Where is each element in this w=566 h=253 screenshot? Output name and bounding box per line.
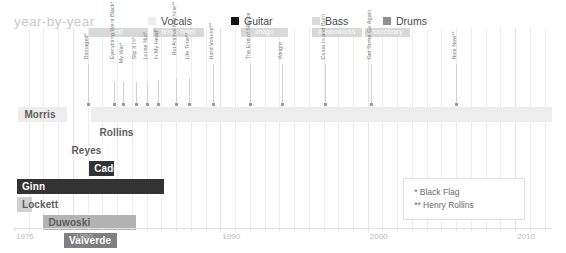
legend-swatch-icon — [148, 17, 156, 25]
album-stem — [88, 64, 89, 104]
axis-tick — [250, 228, 251, 231]
axis-tick — [456, 228, 457, 231]
legend-label: Drums — [396, 15, 427, 27]
publisher-bar: ssf — [89, 28, 148, 37]
member-row: Morris — [14, 106, 552, 124]
legend-label: Bass — [325, 15, 348, 27]
axis-tick-label: 2010 — [517, 232, 535, 241]
member-row: Cadena — [14, 160, 552, 178]
member-name-label: Lockett — [22, 197, 58, 212]
album-title: Weight — [279, 43, 285, 60]
axis-tick — [397, 228, 398, 231]
footnote-line: * Black Flag — [414, 186, 514, 199]
album-title: In My Head* — [155, 29, 161, 60]
axis-tick-label: 1976 — [16, 232, 34, 241]
axis-tick — [324, 228, 325, 231]
album-stem — [136, 82, 137, 104]
album-title: The End of Silence — [246, 13, 252, 60]
album-title: Damaged* — [84, 34, 90, 60]
axis-tick — [147, 228, 148, 231]
axis-tick — [102, 228, 103, 231]
axis-tick — [88, 228, 89, 231]
footnote-line: ** Henry Rollins — [414, 199, 514, 212]
x-axis: 19761980199020002010 — [14, 228, 552, 248]
axis-tick — [265, 228, 266, 231]
album-stem — [189, 78, 190, 104]
axis-tick — [353, 228, 354, 231]
legend-item-vocals: Vocals — [148, 15, 192, 27]
footnote-box: * Black Flag** Henry Rollins — [403, 178, 525, 220]
axis-tick — [338, 228, 339, 231]
album-stem — [213, 64, 214, 104]
axis-tick — [58, 228, 59, 231]
album-title: Loose Nut* — [143, 32, 149, 60]
axis-tick — [412, 228, 413, 231]
member-row: Rollins — [14, 124, 552, 142]
year-by-year-timeline-chart: year-by-year VocalsGuitarBassDrums ssfte… — [0, 0, 566, 253]
axis-tick — [500, 228, 501, 231]
axis-tick — [382, 228, 383, 231]
member-name-label: Rollins — [99, 125, 133, 140]
plot-area: ssftexas hotelimagodreamworkssanctuary D… — [14, 28, 552, 228]
publisher-bar: dreamworks — [312, 28, 362, 37]
publisher-label: sanctuary — [373, 29, 403, 36]
album-stem — [325, 64, 326, 104]
album-stem — [456, 64, 457, 104]
axis-tick — [161, 228, 162, 231]
album-title: Hard Volume** — [209, 23, 215, 60]
legend-item-bass: Bass — [312, 15, 348, 27]
album-stem — [123, 82, 124, 104]
axis-tick — [14, 228, 15, 231]
legend-swatch-icon — [312, 17, 320, 25]
axis-tick — [132, 228, 133, 231]
album-title: Life Time** — [186, 33, 192, 60]
axis-tick-label: 2000 — [370, 232, 388, 241]
album-title: Slip It In* — [133, 38, 139, 60]
album-stem — [176, 78, 177, 104]
axis-tick — [191, 228, 192, 231]
axis-tick — [427, 228, 428, 231]
member-name-label: Morris — [24, 107, 55, 122]
axis-tick-label: 1990 — [222, 232, 240, 241]
axis-tick — [235, 228, 236, 231]
album-stem — [250, 64, 251, 104]
member-name-label: Reyes — [71, 143, 101, 158]
axis-tick — [515, 228, 516, 231]
legend-swatch-icon — [231, 17, 239, 25]
album-title: Come In and Burn — [321, 15, 327, 60]
member-row: Reyes — [14, 142, 552, 160]
axis-tick — [279, 228, 280, 231]
member-bar — [91, 107, 552, 122]
axis-tick — [206, 228, 207, 231]
album-stem — [371, 64, 372, 104]
album-title: Hot Animal Machine** — [173, 2, 179, 56]
album-title: Everything Went Black* — [111, 2, 117, 60]
axis-tick — [73, 228, 74, 231]
publisher-label: imago — [255, 29, 274, 36]
member-name-label: Cadena — [94, 161, 131, 176]
axis-tick — [294, 228, 295, 231]
album-stem — [282, 64, 283, 104]
album-stem — [158, 80, 159, 104]
album-stem — [147, 82, 148, 104]
axis-tick — [309, 228, 310, 231]
page-title: year-by-year — [14, 14, 95, 29]
axis-tick — [29, 228, 30, 231]
axis-tick — [117, 228, 118, 231]
album-title: Nice Now** — [453, 32, 459, 60]
album-title: Get Some Go Again — [367, 10, 373, 60]
axis-tick — [530, 228, 531, 231]
member-name-label: Ginn — [22, 179, 45, 194]
legend-item-drums: Drums — [383, 15, 427, 27]
axis-tick-label: 1980 — [75, 232, 93, 241]
axis-tick — [486, 228, 487, 231]
album-stem — [114, 82, 115, 104]
axis-tick — [545, 228, 546, 231]
axis-tick — [471, 228, 472, 231]
axis-tick — [441, 228, 442, 231]
album-title: My War* — [119, 43, 125, 64]
axis-tick — [220, 228, 221, 231]
axis-tick — [368, 228, 369, 231]
publisher-bar: texas hotel — [153, 28, 205, 37]
axis-tick — [43, 228, 44, 231]
